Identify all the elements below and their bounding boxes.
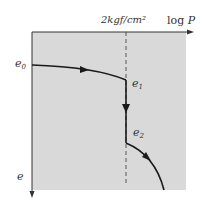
e-logp-diagram: 2kgf/cm² log P e0 e1 e2 e <box>0 0 204 201</box>
y-axis-label: e <box>17 170 24 183</box>
label-e0: e0 <box>15 57 27 71</box>
y-axis-arrow-icon <box>30 191 35 198</box>
x-axis-label: log P <box>167 14 196 27</box>
pressure-marker-label: 2kgf/cm² <box>100 14 146 25</box>
plot-panel <box>32 32 186 190</box>
x-axis-arrow-icon <box>187 30 194 35</box>
